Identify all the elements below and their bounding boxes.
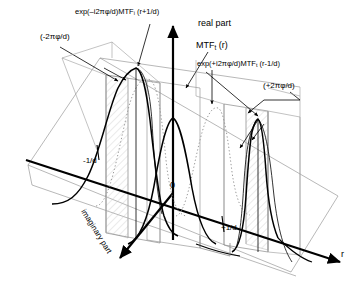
- label-formula-right: exp(+i2πφ/d)MTFt (r-1/d): [197, 60, 280, 69]
- figure-canvas: exp(–i2πφ/d)MTFi (r+1/d) (-2πφ/d) real p…: [0, 0, 358, 295]
- label-phase-right: (+2πφ/d): [263, 82, 295, 90]
- label-real-part-axis: real part: [198, 19, 231, 28]
- r-axis: [26, 160, 340, 262]
- label-r-axis: r: [341, 250, 344, 259]
- tick-label-negative-one-over-d: -1/d: [83, 157, 97, 165]
- label-formula-mid: MTFt (r): [196, 41, 228, 51]
- tick-label-positive-one-over-d: +1/d: [221, 224, 237, 232]
- mtf-complex-plane-diagram: [0, 0, 358, 295]
- label-formula-left: exp(–i2πφ/d)MTFi (r+1/d): [75, 8, 159, 17]
- label-connector-boxes: [62, 42, 300, 104]
- label-phase-left: (-2πφ/d): [40, 33, 70, 41]
- tick-label-zero: 0: [170, 181, 175, 190]
